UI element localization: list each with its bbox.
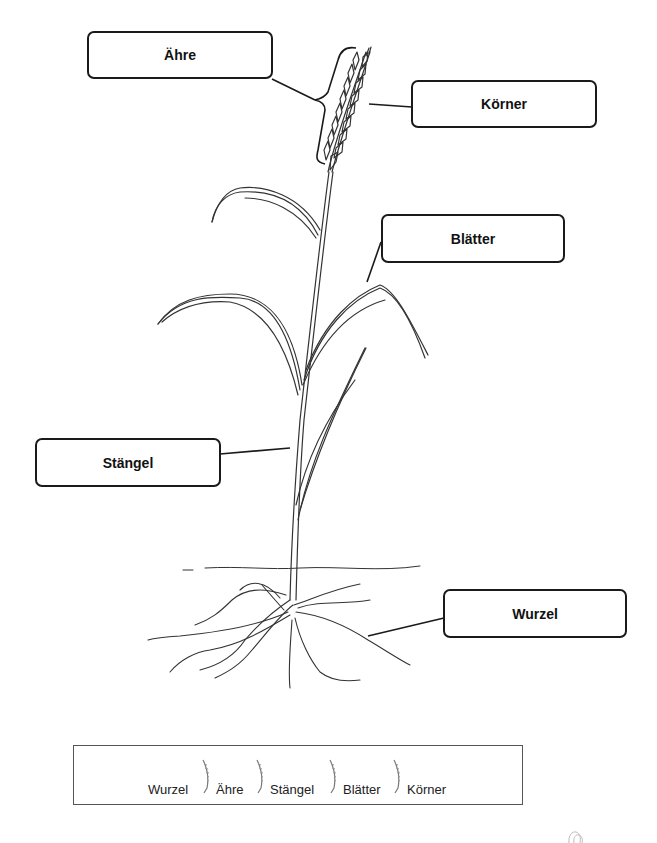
wheat-ear-icon	[255, 758, 265, 794]
word-bank-word[interactable]: Wurzel	[148, 782, 188, 797]
wurzel-leader	[368, 618, 444, 636]
word-bank-word[interactable]: Stängel	[270, 782, 314, 797]
label-wurzel-text: Wurzel	[512, 606, 558, 622]
label-aehre-text: Ähre	[164, 47, 196, 63]
wheat-ear-icon	[392, 758, 402, 794]
aehre-leader	[272, 79, 315, 100]
wheat-ear-icon	[201, 758, 211, 794]
label-koerner-text: Körner	[481, 96, 527, 112]
blaetter-leader	[367, 242, 381, 282]
label-aehre[interactable]: Ähre	[87, 31, 273, 79]
stem-drawing	[290, 172, 333, 600]
label-staengel-text: Stängel	[103, 455, 154, 471]
label-staengel[interactable]: Stängel	[35, 438, 221, 487]
word-bank-word[interactable]: Körner	[407, 782, 446, 797]
ground-line	[183, 566, 420, 570]
wheat-ear-icon	[328, 758, 338, 794]
wheat-ear-drawing	[324, 47, 371, 172]
word-bank-word[interactable]: Ähre	[216, 782, 243, 797]
callout-lines	[220, 48, 444, 636]
koerner-leader	[369, 104, 412, 107]
label-wurzel[interactable]: Wurzel	[443, 589, 627, 638]
staengel-leader	[220, 448, 290, 454]
label-blaetter-text: Blätter	[451, 231, 495, 247]
word-bank-word[interactable]: Blätter	[343, 782, 381, 797]
label-blaetter[interactable]: Blätter	[381, 214, 565, 263]
word-bank: Wurzel Ähre Stängel Blätter Körner	[73, 745, 523, 805]
publisher-logo-icon	[566, 828, 588, 843]
label-koerner[interactable]: Körner	[411, 80, 597, 128]
